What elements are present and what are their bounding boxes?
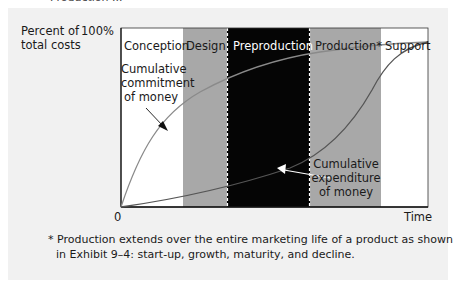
phase-label-production: Production* xyxy=(315,39,382,53)
label-line: Cumulative xyxy=(121,62,181,76)
label-line: Cumulative xyxy=(310,157,382,171)
phase-label-design: Design xyxy=(186,39,226,53)
footnote: * Production extends over the entire mar… xyxy=(48,233,453,262)
phase-band-preproduction xyxy=(227,28,310,207)
x-axis-label: Time xyxy=(404,210,432,224)
phase-label-support: Support xyxy=(385,39,430,53)
commitment-label: Cumulative commitment of money xyxy=(121,62,181,104)
footnote-line1: * Production extends over the entire mar… xyxy=(48,233,453,246)
phase-label-preproduction: Preproduction xyxy=(233,39,313,53)
label-line: of money xyxy=(121,90,181,104)
label-line: expenditure xyxy=(310,171,382,185)
phase-band-design xyxy=(183,28,227,207)
footnote-line2: in Exhibit 9–4: start-up, growth, maturi… xyxy=(48,248,453,263)
expenditure-label: Cumulative expenditure of money xyxy=(310,157,382,199)
label-line: commitment xyxy=(121,76,181,90)
phase-band-support xyxy=(381,28,428,207)
x-origin-label: 0 xyxy=(114,210,121,224)
phase-label-conception: Conception xyxy=(124,39,189,53)
label-line: of money xyxy=(310,185,382,199)
